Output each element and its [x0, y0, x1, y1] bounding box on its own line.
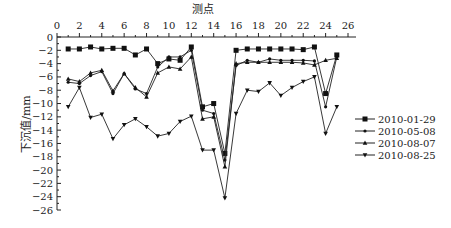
y-tick-label: −12	[32, 111, 53, 122]
y-axis: 0−2−4−6−8−10−12−14−16−18−20−22−24−26	[32, 32, 61, 216]
x-tick-label: 4	[99, 20, 105, 31]
legend-item: 2010-08-07	[355, 138, 436, 149]
legend-label: 2010-08-25	[378, 150, 436, 161]
plot-series	[66, 44, 340, 200]
y-tick-label: −26	[32, 205, 53, 216]
x-tick-label: 12	[185, 20, 198, 31]
x-tick-label: 6	[121, 20, 127, 31]
chart: 测点 02468101214161820222426 0−2−4−6−8−10−…	[0, 0, 451, 228]
y-tick-label: −2	[38, 45, 53, 56]
x-tick-label: 8	[143, 20, 149, 31]
legend-item: 2010-05-08	[355, 126, 436, 137]
x-tick-label: 2	[76, 20, 82, 31]
x-tick-label: 16	[230, 20, 243, 31]
legend-label: 2010-08-07	[378, 138, 436, 149]
x-tick-label: 10	[163, 20, 176, 31]
y-tick-label: −4	[38, 58, 53, 69]
x-tick-label: 26	[342, 20, 355, 31]
x-tick-label: 24	[319, 20, 332, 31]
legend-label: 2010-01-29	[378, 114, 436, 125]
legend: 2010-01-292010-05-082010-08-072010-08-25	[355, 114, 436, 161]
x-tick-label: 0	[54, 20, 60, 31]
series-2010-01-29	[66, 44, 340, 155]
y-tick-label: −24	[32, 191, 53, 202]
y-tick-label: 0	[47, 32, 53, 43]
y-tick-label: −18	[32, 151, 53, 162]
x-tick-label: 22	[297, 20, 310, 31]
y-tick-label: −14	[32, 125, 53, 136]
y-tick-label: −22	[32, 178, 53, 189]
legend-item: 2010-01-29	[355, 114, 436, 125]
x-axis: 02468101214161820222426	[54, 20, 356, 37]
x-tick-label: 14	[207, 20, 220, 31]
x-tick-label: 18	[252, 20, 265, 31]
y-tick-label: −20	[32, 165, 53, 176]
y-tick-label: −16	[32, 138, 53, 149]
y-tick-label: −10	[32, 98, 53, 109]
legend-label: 2010-05-08	[378, 126, 436, 137]
x-axis-title: 测点	[192, 3, 214, 16]
y-tick-label: −6	[38, 71, 53, 82]
legend-item: 2010-08-25	[355, 150, 436, 161]
y-axis-title: 下沉值/mm	[20, 95, 33, 153]
y-tick-label: −8	[38, 85, 53, 96]
series-2010-08-25	[66, 75, 339, 200]
x-tick-label: 20	[274, 20, 287, 31]
